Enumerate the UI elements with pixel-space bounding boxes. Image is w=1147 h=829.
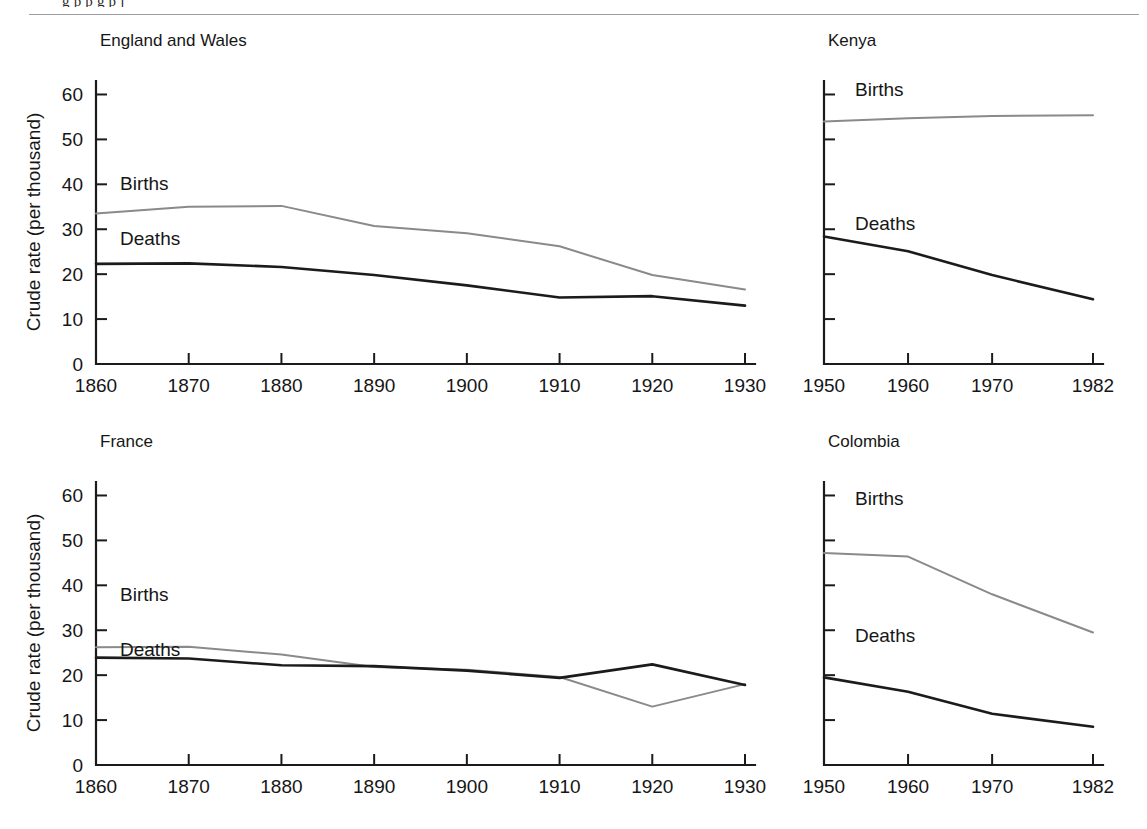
y-tick-label-england-and-wales-10: 10: [62, 309, 83, 330]
y-tick-label-france-0: 0: [72, 755, 83, 776]
series-line-deaths-kenya: [824, 236, 1093, 299]
x-tick-label-france-1900: 1900: [446, 776, 488, 797]
y-tick-label-england-and-wales-40: 40: [62, 174, 83, 195]
series-line-births-france: [96, 647, 745, 707]
series-label-deaths-kenya: Deaths: [855, 213, 915, 234]
x-tick-label-england-and-wales-1890: 1890: [353, 375, 395, 396]
x-tick-label-kenya-1950: 1950: [803, 375, 845, 396]
y-axis-title-france: Crude rate (per thousand): [23, 514, 44, 733]
chart-panel-france: FranceCrude rate (per thousand)605040302…: [23, 432, 766, 797]
series-label-deaths-france: Deaths: [120, 639, 180, 660]
x-tick-label-france-1870: 1870: [168, 776, 210, 797]
series-label-deaths-england-and-wales: Deaths: [120, 228, 180, 249]
panel-title-colombia: Colombia: [828, 432, 900, 451]
chart-panel-colombia: Colombia1950196019701982BirthsDeaths: [803, 432, 1114, 797]
panel-title-france: France: [100, 432, 153, 451]
axis-lines-france: [96, 482, 755, 765]
series-label-births-france: Births: [120, 584, 169, 605]
series-label-births-colombia: Births: [855, 488, 904, 509]
series-line-deaths-france: [96, 658, 745, 685]
x-tick-label-kenya-1960: 1960: [887, 375, 929, 396]
x-tick-label-france-1860: 1860: [75, 776, 117, 797]
x-tick-label-england-and-wales-1860: 1860: [75, 375, 117, 396]
x-tick-label-france-1920: 1920: [631, 776, 673, 797]
series-label-deaths-colombia: Deaths: [855, 625, 915, 646]
series-line-births-england-and-wales: [96, 206, 745, 290]
x-tick-label-france-1880: 1880: [260, 776, 302, 797]
x-tick-label-england-and-wales-1900: 1900: [446, 375, 488, 396]
panel-title-kenya: Kenya: [828, 31, 877, 50]
chart-panel-england-and-wales: England and WalesCrude rate (per thousan…: [23, 31, 766, 396]
panel-title-england-and-wales: England and Wales: [100, 31, 247, 50]
figure-root: g p p g p j England and WalesCrude rate …: [0, 0, 1147, 829]
axis-lines-england-and-wales: [96, 81, 755, 364]
x-tick-label-colombia-1970: 1970: [971, 776, 1013, 797]
chart-panel-kenya: Kenya1950196019701982BirthsDeaths: [803, 31, 1114, 396]
x-tick-label-kenya-1970: 1970: [971, 375, 1013, 396]
y-tick-label-france-40: 40: [62, 575, 83, 596]
x-tick-label-england-and-wales-1910: 1910: [538, 375, 580, 396]
x-tick-label-france-1890: 1890: [353, 776, 395, 797]
y-tick-label-france-30: 30: [62, 620, 83, 641]
series-label-births-england-and-wales: Births: [120, 173, 169, 194]
y-tick-label-france-60: 60: [62, 485, 83, 506]
x-tick-label-france-1930: 1930: [724, 776, 766, 797]
x-tick-label-england-and-wales-1920: 1920: [631, 375, 673, 396]
series-line-deaths-england-and-wales: [96, 263, 745, 305]
series-line-births-kenya: [824, 115, 1093, 121]
y-tick-label-england-and-wales-20: 20: [62, 264, 83, 285]
x-tick-label-france-1910: 1910: [538, 776, 580, 797]
series-line-births-colombia: [824, 553, 1093, 633]
y-tick-label-france-50: 50: [62, 530, 83, 551]
x-tick-label-england-and-wales-1930: 1930: [724, 375, 766, 396]
y-tick-label-france-10: 10: [62, 710, 83, 731]
x-tick-label-colombia-1950: 1950: [803, 776, 845, 797]
x-tick-label-colombia-1960: 1960: [887, 776, 929, 797]
y-tick-label-england-and-wales-50: 50: [62, 129, 83, 150]
x-tick-label-kenya-1982: 1982: [1072, 375, 1114, 396]
y-tick-label-england-and-wales-0: 0: [72, 354, 83, 375]
charts-canvas: England and WalesCrude rate (per thousan…: [0, 0, 1147, 829]
series-line-deaths-colombia: [824, 677, 1093, 726]
series-label-births-kenya: Births: [855, 79, 904, 100]
y-tick-label-england-and-wales-30: 30: [62, 219, 83, 240]
x-tick-label-england-and-wales-1870: 1870: [168, 375, 210, 396]
x-tick-label-england-and-wales-1880: 1880: [260, 375, 302, 396]
y-tick-label-france-20: 20: [62, 665, 83, 686]
x-tick-label-colombia-1982: 1982: [1072, 776, 1114, 797]
y-axis-title-england-and-wales: Crude rate (per thousand): [23, 113, 44, 332]
y-tick-label-england-and-wales-60: 60: [62, 84, 83, 105]
